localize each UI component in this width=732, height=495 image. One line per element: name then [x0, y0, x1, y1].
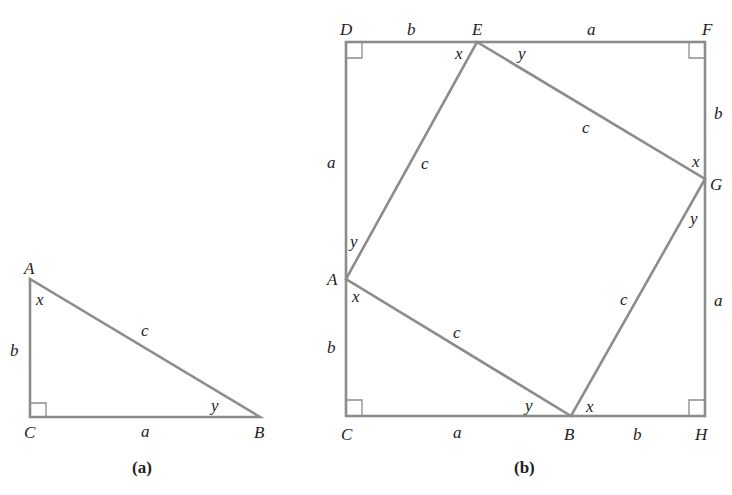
- side-de-label: b: [407, 20, 416, 39]
- triangle-abc: [30, 279, 260, 417]
- side-ad-label: a: [327, 153, 336, 172]
- right-angle-marker-h: [689, 400, 705, 416]
- side-b-label: b: [10, 341, 19, 360]
- angle-b-left-label: y: [523, 396, 533, 415]
- side-bc-label: a: [453, 423, 462, 442]
- angle-g-top-label: x: [691, 152, 700, 171]
- angle-e-right-label: y: [516, 44, 526, 63]
- side-gb-label: c: [620, 290, 628, 309]
- right-angle-marker-c: [30, 403, 46, 417]
- angle-x-label: x: [35, 290, 44, 309]
- vertex-c-label: C: [341, 425, 353, 444]
- caption-a: (a): [132, 458, 152, 477]
- pythagorean-diagram: A C B b a c x y (a) D E F G H B C A b a …: [0, 0, 732, 495]
- vertex-a-label: A: [326, 270, 338, 289]
- vertex-a-label: A: [23, 259, 35, 278]
- vertex-h-label: H: [694, 425, 709, 444]
- side-c-label: c: [141, 321, 149, 340]
- vertex-f-label: F: [701, 20, 713, 39]
- figure-b: D E F G H B C A b a b a b a b a c c c c …: [326, 20, 723, 477]
- angle-y-label: y: [209, 396, 219, 415]
- side-eg-label: c: [582, 118, 590, 137]
- side-gh-label: a: [714, 291, 723, 310]
- side-ba-label: c: [453, 323, 461, 342]
- angle-e-left-label: x: [454, 44, 463, 63]
- vertex-e-label: E: [471, 20, 483, 39]
- vertex-d-label: D: [339, 20, 353, 39]
- angle-g-bottom-label: y: [688, 209, 698, 228]
- outer-square: [346, 42, 705, 416]
- right-angle-marker-f: [689, 42, 705, 58]
- figure-a: A C B b a c x y (a): [10, 259, 265, 477]
- side-ef-label: a: [587, 20, 596, 39]
- vertex-b-label: B: [254, 423, 265, 442]
- caption-b: (b): [514, 458, 535, 477]
- side-hb-label: b: [633, 425, 642, 444]
- vertex-b-label: B: [564, 425, 575, 444]
- vertex-g-label: G: [710, 175, 722, 194]
- side-fg-label: b: [714, 104, 723, 123]
- side-ae-label: c: [421, 154, 429, 173]
- right-angle-marker-c: [346, 400, 362, 416]
- side-ca-label: b: [327, 338, 336, 357]
- right-angle-marker-d: [346, 42, 362, 58]
- side-a-label: a: [141, 422, 150, 441]
- angle-a-bottom-label: x: [351, 287, 360, 306]
- vertex-c-label: C: [24, 423, 36, 442]
- inner-square: [346, 42, 705, 416]
- angle-a-top-label: y: [348, 232, 358, 251]
- angle-b-right-label: x: [585, 397, 594, 416]
